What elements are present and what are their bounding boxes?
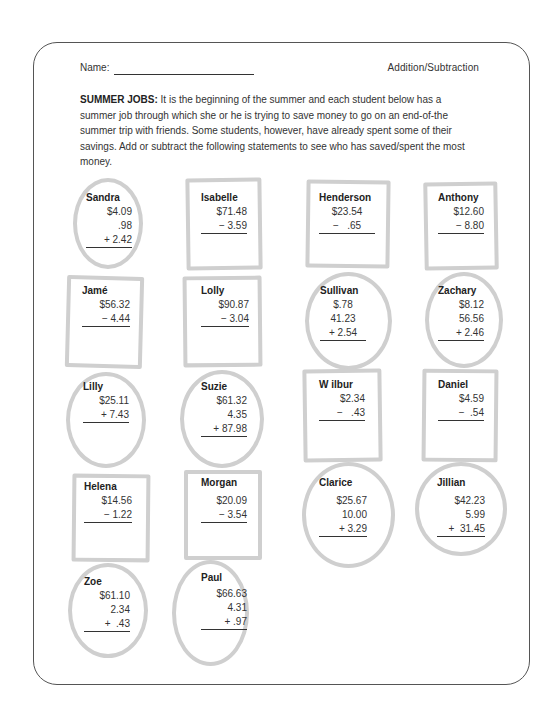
problem-anthony: Anthony $12.60 − 8.80 — [438, 191, 484, 234]
student-name: Lolly — [201, 284, 249, 298]
problem-zoe: Zoe $61.10 2.34 + .43 — [84, 575, 130, 632]
amount-line: $61.10 — [84, 589, 130, 603]
amount-line: 4.35 — [201, 408, 247, 422]
problem-isabelle: Isabelle $71.48 − 3.59 — [201, 191, 247, 234]
amount-line: + 2.46 — [438, 326, 484, 341]
amount-line: − 8.80 — [438, 219, 484, 234]
amount-line: $25.67 — [319, 494, 367, 508]
amount-line: − .43 — [319, 406, 365, 421]
amount-line: + .43 — [84, 617, 130, 632]
student-name: Morgan — [201, 476, 247, 490]
amount-line: + 2.42 — [86, 233, 132, 248]
problem-jillian: Jillian $42.23 5.99 + 31.45 — [437, 476, 485, 537]
problem-clarice: Clarice $25.67 10.00 + 3.29 — [319, 476, 367, 537]
student-name: Helena — [84, 480, 132, 494]
amount-line: + 7.43 — [83, 408, 129, 423]
amount-line: − 3.59 — [201, 219, 247, 234]
amount-line: + 87.98 — [201, 422, 247, 437]
problem-sullivan: Sullivan $.78 41.23 + 2.54 — [320, 284, 366, 341]
amount-line: − 3.04 — [201, 312, 249, 327]
student-name: W ilbur — [319, 378, 365, 392]
student-name: Zachary — [438, 284, 484, 298]
amount-line: $4.09 — [86, 205, 132, 219]
problem-henderson: Henderson $23.54 − .65 — [319, 191, 375, 234]
student-name: Sullivan — [320, 284, 366, 298]
amount-line: − 1.22 — [84, 508, 132, 523]
amount-line: + .97 — [201, 615, 247, 630]
amount-line: − 3.54 — [201, 508, 247, 523]
student-name: Daniel — [438, 378, 484, 392]
amount-line: $71.48 — [201, 205, 247, 219]
amount-line: $8.12 — [438, 298, 484, 312]
amount-line: + 31.45 — [437, 522, 485, 537]
instructions: SUMMER JOBS: It is the beginning of the … — [80, 92, 480, 170]
problem-suzie: Suzie $61.32 4.35 + 87.98 — [201, 380, 247, 437]
amount-line: $66.63 — [201, 587, 247, 601]
student-name: Jillian — [437, 476, 485, 490]
problem-lolly: Lolly $90.87 − 3.04 — [201, 284, 249, 327]
amount-line: 5.99 — [437, 508, 485, 522]
student-name: Zoe — [84, 575, 130, 589]
amount-line: 4.31 — [201, 601, 247, 615]
name-blank-line — [114, 74, 254, 75]
student-name: Lilly — [83, 380, 129, 394]
amount-line: $90.87 — [201, 298, 249, 312]
student-name: Jamé — [82, 284, 130, 298]
amount-line: $12.60 — [438, 205, 484, 219]
amount-line: $.78 — [320, 298, 366, 312]
amount-line: $56.32 — [82, 298, 130, 312]
problem-morgan: Morgan $20.09 − 3.54 — [201, 476, 247, 523]
amount-line: $61.32 — [201, 394, 247, 408]
problem-zachary: Zachary $8.12 56.56 + 2.46 — [438, 284, 484, 341]
amount-line: 41.23 — [320, 312, 366, 326]
student-name: Paul — [201, 571, 247, 585]
amount-line: + 3.29 — [319, 522, 367, 537]
amount-line: $23.54 — [319, 205, 375, 219]
problem-jame: Jamé $56.32 − 4.44 — [82, 284, 130, 327]
amount-line: − 4.44 — [82, 312, 130, 327]
amount-line: .98 — [86, 219, 132, 233]
problem-sandra: Sandra $4.09 .98 + 2.42 — [86, 191, 132, 248]
amount-line: − .54 — [438, 406, 484, 421]
student-name: Henderson — [319, 191, 375, 205]
student-name: Anthony — [438, 191, 484, 205]
student-name: Suzie — [201, 380, 247, 394]
amount-line: 2.34 — [84, 603, 130, 617]
amount-line: + 2.54 — [320, 326, 366, 341]
problem-helena: Helena $14.56 − 1.22 — [84, 480, 132, 523]
worksheet-topic: Addition/Subtraction — [387, 62, 479, 73]
student-name: Isabelle — [201, 191, 247, 205]
amount-line: $42.23 — [437, 494, 485, 508]
problem-daniel: Daniel $4.59 − .54 — [438, 378, 484, 421]
student-name: Sandra — [86, 191, 132, 205]
amount-line: $14.56 — [84, 494, 132, 508]
amount-line: $20.09 — [201, 494, 247, 508]
problem-wilbur: W ilbur $2.34 − .43 — [319, 378, 365, 421]
instructions-title: SUMMER JOBS: — [80, 94, 158, 105]
amount-line: 10.00 — [319, 508, 367, 522]
amount-line: 56.56 — [438, 312, 484, 326]
amount-line: $4.59 — [438, 392, 484, 406]
amount-line: $2.34 — [319, 392, 365, 406]
amount-line: $25.11 — [83, 394, 129, 408]
name-label: Name: — [80, 62, 109, 73]
problem-lilly: Lilly $25.11 + 7.43 — [83, 380, 129, 423]
amount-line: − .65 — [319, 219, 375, 234]
problem-paul: Paul $66.63 4.31 + .97 — [201, 571, 247, 630]
student-name: Clarice — [319, 476, 367, 490]
